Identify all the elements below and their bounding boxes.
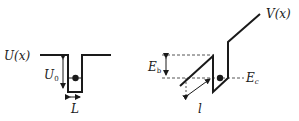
depth-label: U0 [44, 68, 59, 83]
potential-label-u: U(x) [4, 49, 31, 63]
tunnel-length-arrow [188, 79, 210, 95]
width-label: L [70, 102, 79, 116]
potential-well-diagrams: U(x) U0 L V(x) Eb Ec l [0, 0, 299, 121]
particle-dot [217, 75, 223, 81]
square-well-diagram: U(x) U0 L [4, 49, 111, 116]
length-label: l [198, 102, 202, 116]
energy-label: Ec [245, 71, 259, 86]
potential-label-v: V(x) [266, 7, 291, 21]
barrier-label: Eb [147, 60, 162, 75]
particle-dot [72, 75, 78, 81]
tilted-barrier-diagram: V(x) Eb Ec l [147, 7, 291, 116]
